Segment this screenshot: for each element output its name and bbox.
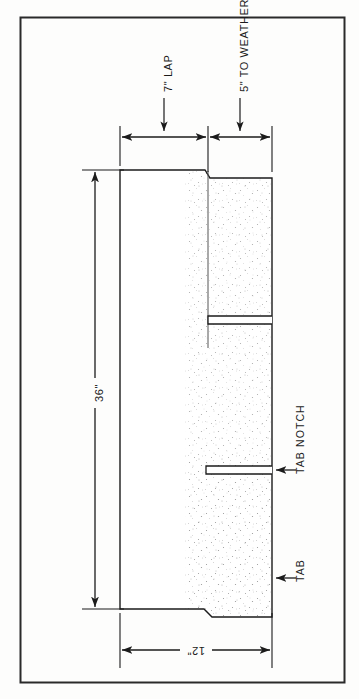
tab-notch-lower xyxy=(206,466,272,474)
dimension-label-height: 36" xyxy=(93,384,105,402)
drawing-canvas: 7" LAP 5" TO WEATHER 36" 12" TAB NOTCH T… xyxy=(0,0,359,699)
asphalt-shingle-body xyxy=(120,170,277,620)
dimension-label-lap: 7" LAP xyxy=(162,55,174,92)
callout-label-tab-notch: TAB NOTCH xyxy=(294,404,306,474)
dimension-label-width: 12" xyxy=(187,645,205,657)
technical-drawing-sheet: 7" LAP 5" TO WEATHER 36" 12" TAB NOTCH T… xyxy=(0,0,359,699)
dimension-label-to-weather: 5" TO WEATHER xyxy=(238,0,250,92)
callout-label-tab: TAB xyxy=(294,559,306,582)
tab-notch-upper xyxy=(208,316,272,324)
